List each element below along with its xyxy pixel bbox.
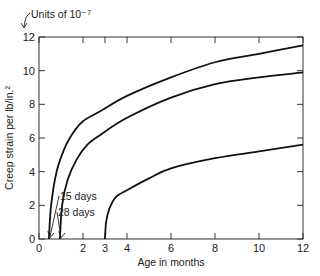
curve-annotation: 15 days bbox=[60, 190, 97, 202]
x-axis-label: Age in months bbox=[137, 256, 204, 268]
units-arrow bbox=[24, 13, 30, 27]
y-tick-label: 0 bbox=[29, 233, 35, 245]
curve-annotation: 28 days bbox=[58, 206, 95, 218]
y-tick-label: 10 bbox=[23, 65, 35, 77]
y-tick-label: 8 bbox=[29, 98, 35, 110]
y-axis-label: Creep strain per lb/in.² bbox=[3, 86, 15, 190]
y-tick-label: 4 bbox=[29, 166, 35, 178]
x-tick-label: 12 bbox=[297, 242, 309, 254]
x-tick-label: 4 bbox=[124, 242, 130, 254]
x-tick-label: 0 bbox=[36, 242, 42, 254]
y-tick-label: 2 bbox=[29, 199, 35, 211]
y-tick-label: 12 bbox=[23, 31, 35, 43]
units-note: Units of 10⁻⁷ bbox=[31, 8, 91, 20]
y-tick-label: 6 bbox=[29, 132, 35, 144]
creep-strain-chart: 0234681012024681012Age in monthsCreep st… bbox=[0, 0, 320, 276]
x-tick-label: 10 bbox=[253, 242, 265, 254]
series-line bbox=[105, 145, 303, 239]
series-line bbox=[60, 72, 303, 239]
x-tick-label: 3 bbox=[102, 242, 108, 254]
x-tick-label: 2 bbox=[80, 242, 86, 254]
x-tick-label: 8 bbox=[212, 242, 218, 254]
x-tick-label: 6 bbox=[168, 242, 174, 254]
